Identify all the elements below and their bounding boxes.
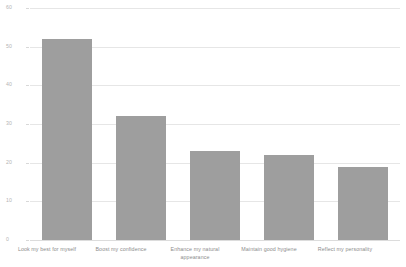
y-axis-tick-mark [26, 163, 29, 164]
bar-boost-my-confidence [116, 116, 166, 240]
x-axis-label-line: Reflect my personality [301, 246, 389, 254]
y-axis-tick-mark [26, 201, 29, 202]
gridline-baseline-0 [30, 240, 400, 241]
y-axis-tick-mark [26, 85, 29, 86]
y-axis-tick-label-40: 40 [6, 82, 26, 87]
bar-maintain-good-hygiene [264, 155, 314, 240]
y-axis-tick-mark [26, 8, 29, 9]
x-axis-label-enhance-my-natural-appearance: Enhance my natural appearance [153, 246, 237, 261]
y-axis-tick-label-50: 50 [6, 44, 26, 49]
y-axis-tick-mark [26, 124, 29, 125]
y-axis-tick-label-30: 30 [6, 121, 26, 126]
x-axis-label-line: appearance [153, 254, 237, 262]
y-axis-tick-label-0: 0 [6, 237, 26, 242]
x-axis-label-reflect-my-personality: Reflect my personality [301, 246, 389, 254]
x-axis-label-line: Enhance my natural [153, 246, 237, 254]
x-axis-label-line: Look my best for myself [5, 246, 89, 254]
plot-area [30, 8, 400, 240]
gridline-60 [30, 8, 400, 9]
x-axis-label-line: Maintain good hygiene [227, 246, 311, 254]
y-axis-tick-label-60: 60 [6, 5, 26, 10]
bar-reflect-my-personality [338, 167, 388, 240]
y-axis-tick-mark [26, 240, 29, 241]
y-axis-tick-label-20: 20 [6, 160, 26, 165]
x-axis-label-line: Boost my confidence [79, 246, 163, 254]
x-axis-label-boost-my-confidence: Boost my confidence [79, 246, 163, 254]
y-axis-tick-mark [26, 47, 29, 48]
bar-enhance-my-natural-appearance [190, 151, 240, 240]
x-axis-label-maintain-good-hygiene: Maintain good hygiene [227, 246, 311, 254]
y-axis-tick-label-10: 10 [6, 198, 26, 203]
bar-chart: 60 50 40 30 20 10 0 Look my best for mys… [0, 0, 406, 267]
x-axis-label-look-my-best-for-myself: Look my best for myself [5, 246, 89, 254]
bar-look-my-best-for-myself [42, 39, 92, 240]
